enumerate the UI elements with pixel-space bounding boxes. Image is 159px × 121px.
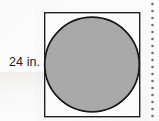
dimension-label: 24 in. xyxy=(9,56,40,69)
perforated-edge xyxy=(150,1,155,120)
inscribed-circle xyxy=(45,17,140,112)
geometry-figure-container: 24 in. xyxy=(0,0,159,121)
